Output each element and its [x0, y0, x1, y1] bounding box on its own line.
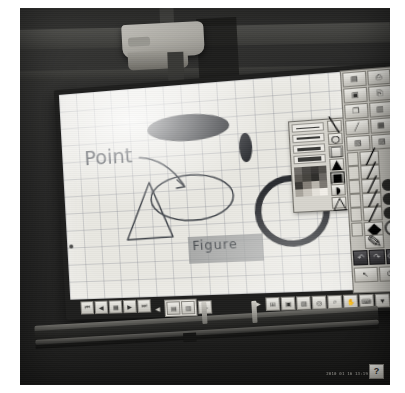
palette-main — [289, 120, 331, 212]
pen-rows[interactable]: ╱ ╱ ╱ ╱ — [346, 149, 390, 249]
line-width-1[interactable] — [291, 122, 324, 133]
capture-button[interactable]: ▦ — [369, 117, 390, 134]
filled-ellipse-large — [146, 111, 230, 144]
projector-lens-icon — [128, 37, 150, 47]
pointer-button[interactable]: ↖ — [354, 267, 378, 283]
filled-ellipse-small — [238, 132, 253, 162]
pen-swatch[interactable] — [351, 222, 363, 236]
pen-swatch[interactable] — [349, 193, 361, 207]
palette-panel[interactable]: ╲ ○ □ ▲ ▣ ◗ △ — [288, 117, 349, 213]
whiteboard[interactable]: Point Figure — [54, 62, 390, 320]
paste-button[interactable]: ▥ — [368, 101, 390, 118]
undo-button[interactable]: ↶ — [353, 250, 369, 266]
new-page-button[interactable]: ▤ — [342, 71, 366, 88]
print-button[interactable]: ⎙ — [366, 69, 390, 86]
page-prev-button[interactable]: ◀ — [94, 301, 108, 315]
pen-swatch[interactable] — [348, 180, 360, 195]
line-width-3[interactable] — [293, 143, 326, 154]
tool-grid-dark[interactable]: ↶ ↷ ⌫ — [351, 247, 390, 266]
bottom-left-group[interactable]: ⏮ ◀ ▦ ▶ ⏭ — [80, 299, 151, 314]
open-button[interactable]: ⎘ — [367, 85, 390, 102]
pen-color-dot[interactable] — [383, 207, 390, 219]
triangle — [124, 181, 173, 240]
pen-color-dot[interactable] — [382, 179, 390, 192]
pen-swatch[interactable] — [347, 152, 359, 167]
page-last-button[interactable]: ⏭ — [137, 299, 151, 313]
eraser-icon[interactable]: ✎ — [364, 234, 384, 249]
line-width-2[interactable] — [292, 133, 325, 144]
copy-button[interactable]: ❐ — [344, 103, 368, 120]
photograph: Point Figure — [0, 0, 405, 393]
tool-grid-top[interactable]: ▤ ⎙ ▣ ⎘ ❐ ▥ ╱ ▦ ▧ ▨ — [341, 68, 390, 153]
arrow — [139, 155, 183, 187]
page-next-button[interactable]: ▶ — [123, 300, 137, 314]
classroom-wall: Point Figure — [20, 8, 390, 385]
pen-color-dot[interactable] — [382, 193, 390, 206]
help-button[interactable]: ? — [369, 364, 384, 379]
save-button[interactable]: ▣ — [343, 87, 367, 104]
timestamp: 2010 01 16 13:19 — [326, 371, 368, 376]
marker-button[interactable]: ╱ — [345, 119, 369, 136]
fill-tool-icon[interactable]: △ — [331, 196, 346, 208]
figure-label: Figure — [192, 236, 261, 254]
color-swatch — [319, 188, 328, 196]
point-label: Point — [84, 144, 133, 169]
pen-swatch[interactable] — [350, 207, 362, 221]
page-thumb-button[interactable]: ▦ — [109, 300, 123, 314]
color-grid[interactable] — [294, 166, 328, 197]
page-first-button[interactable]: ⏮ — [80, 301, 94, 314]
tool-grid-bottom[interactable]: ↖ ⏻ — [352, 265, 390, 284]
exit-button[interactable]: ⏻ — [378, 266, 390, 282]
pen-swatch[interactable] — [348, 166, 360, 181]
line-width-4[interactable] — [293, 154, 326, 164]
redo-button[interactable]: ↷ — [369, 249, 385, 265]
tray-eraser[interactable] — [183, 332, 197, 342]
clear-button[interactable]: ⌫ — [385, 249, 390, 265]
